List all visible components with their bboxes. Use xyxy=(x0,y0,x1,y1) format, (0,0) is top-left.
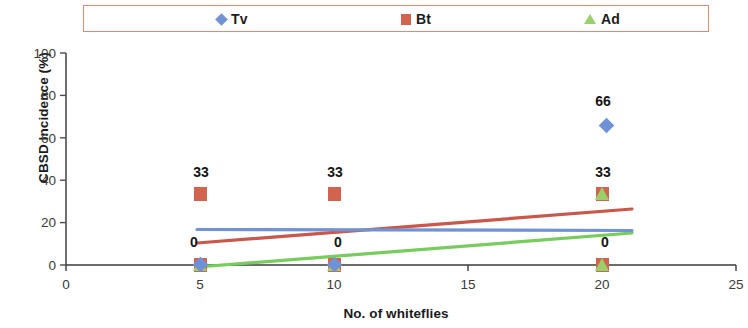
point-ad-x20-zero[interactable] xyxy=(595,258,609,271)
data-label-66-x20: 66 xyxy=(588,93,618,109)
data-label-33-x20: 33 xyxy=(588,164,618,180)
point-bt-x5[interactable] xyxy=(194,187,207,201)
data-label-33-x5: 33 xyxy=(186,164,216,180)
data-label-33-x10: 33 xyxy=(320,164,350,180)
point-bt-x10[interactable] xyxy=(328,187,341,201)
point-ad-x20[interactable] xyxy=(595,187,609,200)
data-label-0-x5: 0 xyxy=(179,234,209,250)
data-label-0-x10: 0 xyxy=(323,234,353,250)
trendline-tv xyxy=(197,230,632,231)
data-label-0-x20: 0 xyxy=(590,234,620,250)
